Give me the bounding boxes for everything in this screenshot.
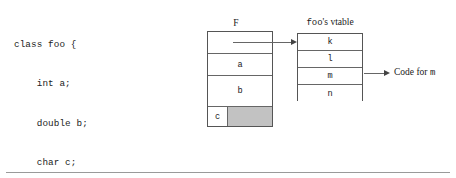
vtable-box: k l m n: [297, 33, 363, 101]
code-listing: class foo { int a; double b; char c; pub…: [14, 12, 156, 178]
class-layout-vtable-figure: class foo { int a; double b; char c; pub…: [0, 0, 456, 178]
object-row-a: a: [208, 54, 272, 76]
object-row-b-label: b: [237, 86, 242, 96]
vtable-title-suffix: 's vtable: [323, 17, 354, 27]
object-row-b: b: [208, 76, 272, 107]
code-for-m-prefix: Code for: [394, 67, 430, 77]
vtable-entry-n: n: [298, 85, 362, 102]
object-row-vptr: [208, 32, 272, 54]
code-line: class foo {: [14, 38, 156, 51]
vtable-title: foo's vtable: [306, 17, 353, 28]
figure-bottom-rule: [6, 172, 450, 173]
vtable-entry-l-label: l: [327, 54, 332, 64]
object-layout-title: F: [233, 18, 238, 28]
vtable-entry-n-label: n: [327, 89, 332, 99]
vtable-entry-k: k: [298, 34, 362, 51]
vtable-title-class: foo: [306, 18, 322, 28]
vtable-entry-k-label: k: [327, 37, 332, 47]
code-for-m-method: m: [430, 68, 435, 78]
vtable-entry-m: m: [298, 68, 362, 85]
code-line: double b;: [14, 117, 156, 130]
object-padding-block: [228, 107, 272, 126]
object-row-c-label: c: [208, 107, 228, 126]
code-for-m-label: Code for m: [394, 67, 435, 78]
vtable-entry-m-label: m: [327, 71, 332, 81]
object-row-a-label: a: [237, 60, 242, 70]
vtable-entry-l: l: [298, 51, 362, 68]
vptr-arrow-line: [233, 42, 294, 43]
object-row-c: c: [208, 107, 272, 126]
method-m-arrow-head-icon: [384, 70, 390, 76]
code-line: char c;: [14, 156, 156, 169]
object-layout-box: a b c: [207, 31, 273, 127]
code-line: int a;: [14, 77, 156, 90]
method-m-arrow-line: [364, 73, 386, 74]
